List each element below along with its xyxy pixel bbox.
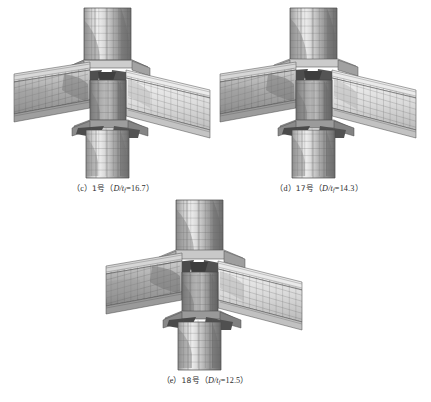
panel-e-param-symbol: D/t [208,376,219,385]
panel-c-paren-close: ） [146,184,154,193]
figure-panel-e: （e）18号（D/tf=12.5） [104,196,306,392]
panel-caption-d: （d）17号（D/tf=14.3） [218,183,420,196]
fea-model-c [12,4,214,190]
left-beam-d [218,60,298,122]
panel-e-index: （e） [162,376,182,385]
panel-e-specimen: 18号 [182,376,200,385]
figure-panel-c: （c）1号（D/tf=16.7） [12,4,214,200]
panel-c-param-value: 16.7 [131,184,146,193]
fea-mesh-group-d [218,6,420,180]
panel-e-paren-open: （ [200,376,208,385]
left-beam-e [104,251,184,314]
panel-e-paren-close: ） [240,376,248,385]
fea-mesh-group-c [12,6,214,180]
panel-d-paren-close: ） [355,184,363,193]
figure-panel-d: （d）17号（D/tf=14.3） [218,4,420,200]
panel-d-specimen: 17号 [296,184,314,193]
panel-c-param-symbol: D/t [113,184,124,193]
lower-column-d [290,128,338,180]
fea-model-d [218,4,420,190]
lower-column-e [176,320,224,372]
panel-d-paren-open: （ [314,184,322,193]
panel-d-param-symbol: D/t [322,184,333,193]
lower-column-c [84,128,132,180]
panel-caption-c: （c）1号（D/tf=16.7） [12,183,214,196]
panel-d-param-value: 14.3 [340,184,355,193]
fea-model-e [104,196,306,382]
left-beam-c [12,60,92,122]
fea-mesh-group-e [104,198,306,372]
panel-c-index: （c） [72,184,92,193]
panel-caption-e: （e）18号（D/tf=12.5） [104,375,306,388]
panel-d-index: （d） [275,184,296,193]
panel-e-param-value: 12.5 [225,376,240,385]
panel-c-specimen: 1号 [92,184,105,193]
figure-sheet: （c）1号（D/tf=16.7） [0,0,431,402]
